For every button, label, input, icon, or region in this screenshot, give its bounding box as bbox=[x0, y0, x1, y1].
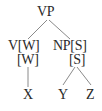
node-np-s-feature: [S] bbox=[69, 53, 85, 67]
leaf-x: X bbox=[23, 88, 33, 102]
edge-vp-to-v bbox=[28, 20, 47, 39]
leaf-y: Y bbox=[58, 88, 68, 102]
edge-vp-to-np bbox=[49, 20, 70, 39]
node-vp: VP bbox=[37, 5, 54, 19]
edge-s-to-z bbox=[77, 67, 91, 85]
node-v-w: V[W] bbox=[8, 39, 39, 53]
leaf-z: Z bbox=[86, 88, 94, 102]
node-v-w-feature: [W] bbox=[17, 53, 39, 67]
node-np-s: NP[S] bbox=[53, 39, 87, 53]
edge-s-to-y bbox=[63, 67, 75, 85]
